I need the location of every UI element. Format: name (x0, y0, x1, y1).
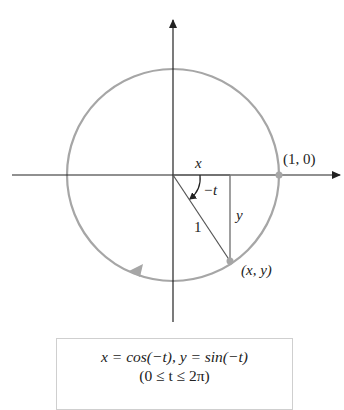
label-angle: −t (203, 183, 217, 198)
start-point-marker (276, 172, 283, 179)
angle-arc-icon (190, 175, 200, 199)
equation-box: x = cos(−t), y = sin(−t) (0 ≤ t ≤ 2π) (56, 338, 293, 410)
label-moving-point: (x, y) (241, 263, 272, 278)
parameter-range: (0 ≤ t ≤ 2π) (57, 366, 292, 385)
label-radius: 1 (194, 220, 202, 235)
label-x-segment: x (195, 156, 202, 171)
parametric-equations: x = cos(−t), y = sin(−t) (57, 347, 292, 366)
label-y-segment: y (236, 208, 243, 223)
moving-point-marker (227, 258, 234, 265)
radius-line (173, 175, 230, 261)
label-start-point: (1, 0) (283, 152, 316, 167)
